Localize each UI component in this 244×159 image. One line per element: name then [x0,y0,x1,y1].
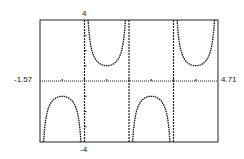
x-max-label: 4.71 [221,76,237,84]
y-min-label: -4 [80,146,87,154]
graph-canvas [0,0,244,159]
curve-branch-3 [130,96,173,159]
x-min-label: -1.57 [14,76,32,84]
curve-branch-4 [174,0,217,66]
y-max-label: 4 [82,10,86,18]
axes [40,20,218,142]
curve-branch-2 [85,0,128,66]
curve-branch-1 [41,96,84,159]
